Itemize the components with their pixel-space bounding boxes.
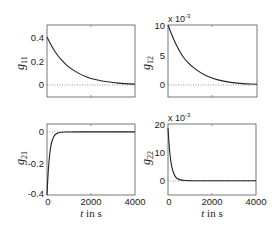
- curve-g12: [168, 25, 257, 84]
- panel-g22: 20 10 0 0 2000 4000 t in s x 10-3 g22: [139, 112, 267, 219]
- ytick-g11-0: 0.4: [31, 32, 44, 43]
- ylabel-g22: g22: [139, 151, 155, 165]
- exponent-label-g12: x 10-3: [168, 13, 191, 24]
- ytick-g22-1: 10: [154, 147, 165, 158]
- ylabel-g21: g21: [13, 151, 29, 165]
- panel-g12: 10 5 0 x 10-3 g12: [139, 13, 257, 97]
- figure: 0.4 0.2 0 g11 10 5 0 x 10-3 g12 0 -0.2 -…: [0, 0, 279, 227]
- curve-g11: [47, 37, 135, 84]
- ytick-g21-1: -0.2: [28, 158, 44, 169]
- xtick-g21-2: 4000: [124, 196, 145, 207]
- xtick-g22-2: 4000: [245, 196, 266, 207]
- ytick-g22-2: 0: [160, 175, 165, 186]
- curve-g21: [47, 132, 135, 195]
- axes-box-g11: [47, 25, 135, 97]
- xtick-g21-0: 0: [45, 196, 50, 207]
- ylabel-g12: g12: [139, 56, 155, 70]
- axes-box-g12: [168, 25, 257, 97]
- exponent-label-g22: x 10-3: [168, 112, 191, 123]
- curve-g22: [168, 128, 256, 181]
- xtick-g22-1: 2000: [201, 196, 222, 207]
- ytick-g22-0: 20: [154, 119, 165, 130]
- ytick-g11-1: 0.2: [31, 56, 44, 67]
- axes-box-g22: [168, 124, 256, 195]
- xlabel-g22: t in s: [201, 207, 222, 219]
- xtick-g21-1: 2000: [80, 196, 101, 207]
- ytick-g21-0: 0: [39, 126, 44, 137]
- ytick-g12-0: 10: [154, 20, 165, 31]
- ytick-g11-2: 0: [39, 79, 44, 90]
- ylabel-g11: g11: [13, 56, 29, 70]
- xtick-g22-0: 0: [166, 196, 171, 207]
- ytick-g21-2: -0.4: [28, 188, 44, 199]
- panel-g21: 0 -0.2 -0.4 0 2000 4000 t in s g21: [13, 124, 146, 219]
- ytick-g12-1: 5: [160, 50, 165, 61]
- xlabel-g21: t in s: [80, 207, 101, 219]
- ytick-g12-2: 0: [160, 79, 165, 90]
- axes-box-g21: [47, 124, 135, 195]
- panel-g11: 0.4 0.2 0 g11: [13, 25, 135, 97]
